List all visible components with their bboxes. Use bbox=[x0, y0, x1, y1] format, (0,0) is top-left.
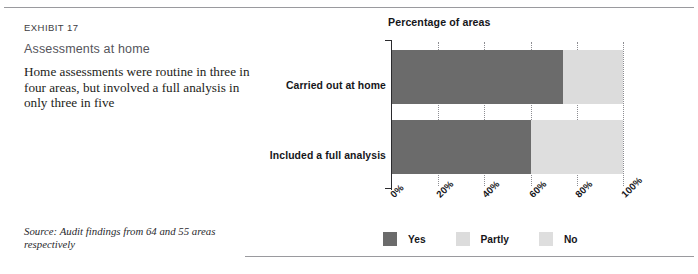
legend-label: Partly bbox=[481, 234, 509, 245]
legend-item[interactable]: Partly bbox=[456, 232, 509, 246]
exhibit-figure: EXHIBIT 17 Assessments at home Home asse… bbox=[0, 0, 698, 274]
legend-item[interactable]: Yes bbox=[383, 232, 426, 246]
legend-label: Yes bbox=[408, 234, 426, 245]
chart: Percentage of areas Carried out at home … bbox=[0, 0, 698, 274]
bar-segment-yes bbox=[392, 50, 563, 104]
category-label-0: Carried out at home bbox=[186, 80, 386, 91]
bar-segment-partly bbox=[563, 50, 623, 104]
axis-tick-top bbox=[385, 40, 392, 41]
legend-swatch-icon bbox=[383, 232, 397, 246]
bar-segment-no bbox=[531, 120, 623, 174]
bar-row bbox=[392, 120, 623, 174]
legend-swatch-icon bbox=[456, 232, 470, 246]
chart-legend: YesPartlyNo bbox=[383, 232, 608, 246]
legend-label: No bbox=[564, 234, 578, 245]
chart-title: Percentage of areas bbox=[388, 16, 491, 28]
bar-segment-yes bbox=[392, 120, 531, 174]
plot-area bbox=[392, 42, 623, 186]
legend-swatch-icon bbox=[539, 232, 553, 246]
legend-item[interactable]: No bbox=[539, 232, 578, 246]
bar-row bbox=[392, 50, 623, 104]
x-axis-ticks: 0%20%40%60%80%100% bbox=[392, 192, 623, 222]
gridline bbox=[623, 42, 624, 186]
category-label-1: Included a full analysis bbox=[186, 150, 386, 161]
